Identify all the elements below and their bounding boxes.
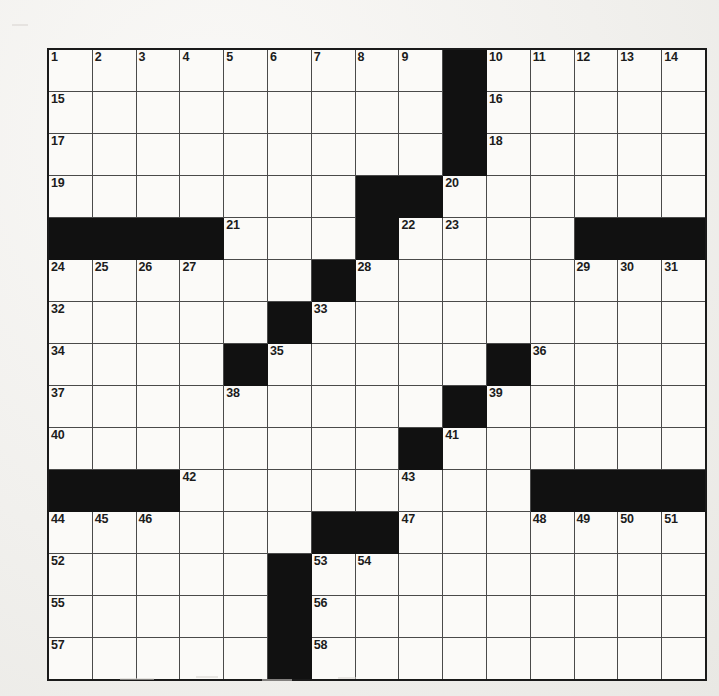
letter-cell[interactable] — [180, 554, 224, 596]
letter-cell[interactable] — [399, 92, 443, 134]
letter-cell[interactable] — [399, 554, 443, 596]
letter-cell[interactable] — [180, 176, 224, 218]
letter-cell[interactable]: 23 — [443, 218, 487, 260]
letter-cell[interactable] — [267, 218, 311, 260]
letter-cell[interactable] — [224, 596, 268, 638]
letter-cell[interactable] — [530, 176, 574, 218]
letter-cell[interactable] — [486, 596, 530, 638]
letter-cell[interactable]: 43 — [399, 470, 443, 512]
letter-cell[interactable] — [574, 638, 618, 681]
letter-cell[interactable]: 56 — [311, 596, 355, 638]
letter-cell[interactable]: 18 — [486, 134, 530, 176]
letter-cell[interactable]: 8 — [355, 49, 399, 92]
letter-cell[interactable] — [662, 638, 706, 681]
letter-cell[interactable]: 16 — [486, 92, 530, 134]
letter-cell[interactable]: 53 — [311, 554, 355, 596]
letter-cell[interactable]: 4 — [180, 49, 224, 92]
letter-cell[interactable] — [443, 344, 487, 386]
letter-cell[interactable] — [180, 386, 224, 428]
letter-cell[interactable] — [355, 92, 399, 134]
letter-cell[interactable] — [443, 554, 487, 596]
letter-cell[interactable]: 49 — [574, 512, 618, 554]
letter-cell[interactable] — [311, 218, 355, 260]
letter-cell[interactable] — [224, 176, 268, 218]
letter-cell[interactable] — [486, 512, 530, 554]
letter-cell[interactable] — [530, 386, 574, 428]
letter-cell[interactable] — [618, 386, 662, 428]
letter-cell[interactable]: 42 — [180, 470, 224, 512]
letter-cell[interactable] — [92, 92, 136, 134]
letter-cell[interactable]: 54 — [355, 554, 399, 596]
letter-cell[interactable] — [224, 512, 268, 554]
letter-cell[interactable] — [136, 92, 180, 134]
letter-cell[interactable] — [662, 428, 706, 470]
letter-cell[interactable]: 26 — [136, 260, 180, 302]
letter-cell[interactable]: 2 — [92, 49, 136, 92]
letter-cell[interactable]: 21 — [224, 218, 268, 260]
letter-cell[interactable] — [618, 344, 662, 386]
letter-cell[interactable]: 46 — [136, 512, 180, 554]
letter-cell[interactable] — [443, 512, 487, 554]
letter-cell[interactable] — [530, 302, 574, 344]
letter-cell[interactable] — [136, 344, 180, 386]
letter-cell[interactable] — [92, 176, 136, 218]
letter-cell[interactable] — [574, 386, 618, 428]
letter-cell[interactable]: 1 — [48, 49, 92, 92]
letter-cell[interactable] — [530, 428, 574, 470]
letter-cell[interactable] — [136, 302, 180, 344]
letter-cell[interactable] — [618, 554, 662, 596]
letter-cell[interactable] — [443, 470, 487, 512]
letter-cell[interactable]: 38 — [224, 386, 268, 428]
letter-cell[interactable] — [618, 428, 662, 470]
letter-cell[interactable] — [92, 554, 136, 596]
letter-cell[interactable] — [574, 596, 618, 638]
letter-cell[interactable]: 45 — [92, 512, 136, 554]
letter-cell[interactable]: 57 — [48, 638, 92, 681]
letter-cell[interactable]: 12 — [574, 49, 618, 92]
letter-cell[interactable] — [530, 596, 574, 638]
letter-cell[interactable] — [136, 638, 180, 681]
letter-cell[interactable] — [311, 428, 355, 470]
letter-cell[interactable] — [224, 428, 268, 470]
letter-cell[interactable]: 25 — [92, 260, 136, 302]
letter-cell[interactable] — [618, 302, 662, 344]
letter-cell[interactable] — [443, 260, 487, 302]
letter-cell[interactable] — [311, 470, 355, 512]
letter-cell[interactable]: 51 — [662, 512, 706, 554]
letter-cell[interactable]: 13 — [618, 49, 662, 92]
letter-cell[interactable] — [224, 638, 268, 681]
letter-cell[interactable] — [224, 260, 268, 302]
letter-cell[interactable] — [311, 134, 355, 176]
letter-cell[interactable] — [618, 596, 662, 638]
letter-cell[interactable] — [180, 596, 224, 638]
letter-cell[interactable] — [267, 176, 311, 218]
letter-cell[interactable]: 7 — [311, 49, 355, 92]
letter-cell[interactable]: 29 — [574, 260, 618, 302]
letter-cell[interactable] — [399, 260, 443, 302]
letter-cell[interactable] — [224, 302, 268, 344]
letter-cell[interactable] — [486, 470, 530, 512]
letter-cell[interactable] — [574, 92, 618, 134]
letter-cell[interactable] — [662, 176, 706, 218]
letter-cell[interactable]: 55 — [48, 596, 92, 638]
letter-cell[interactable] — [267, 470, 311, 512]
letter-cell[interactable] — [267, 386, 311, 428]
letter-cell[interactable] — [136, 176, 180, 218]
letter-cell[interactable]: 36 — [530, 344, 574, 386]
letter-cell[interactable]: 6 — [267, 49, 311, 92]
letter-cell[interactable]: 20 — [443, 176, 487, 218]
letter-cell[interactable]: 39 — [486, 386, 530, 428]
letter-cell[interactable] — [267, 134, 311, 176]
letter-cell[interactable]: 50 — [618, 512, 662, 554]
letter-cell[interactable] — [618, 176, 662, 218]
letter-cell[interactable] — [574, 176, 618, 218]
letter-cell[interactable] — [136, 386, 180, 428]
letter-cell[interactable] — [662, 344, 706, 386]
letter-cell[interactable] — [443, 596, 487, 638]
letter-cell[interactable] — [662, 554, 706, 596]
letter-cell[interactable] — [92, 134, 136, 176]
letter-cell[interactable] — [355, 470, 399, 512]
letter-cell[interactable]: 22 — [399, 218, 443, 260]
letter-cell[interactable] — [180, 134, 224, 176]
letter-cell[interactable]: 33 — [311, 302, 355, 344]
